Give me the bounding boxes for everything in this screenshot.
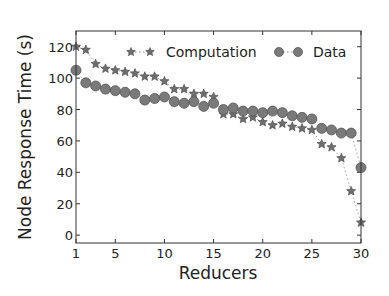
- circle-marker-icon: [179, 98, 189, 108]
- plot-frame: [76, 31, 361, 243]
- circle-marker-icon: [258, 108, 268, 118]
- legend: Computation Data: [127, 44, 347, 60]
- plot-series: [71, 42, 366, 227]
- star-marker-icon: [297, 124, 306, 133]
- x-tick-label: 25: [304, 246, 321, 261]
- circle-marker-icon: [159, 92, 169, 102]
- x-tick-label: 20: [254, 246, 271, 261]
- legend-label-computation: Computation: [166, 44, 257, 60]
- star-marker-icon: [140, 72, 149, 81]
- circle-marker-icon: [218, 105, 228, 115]
- legend-label-data: Data: [313, 44, 346, 60]
- circle-marker-icon: [209, 98, 219, 108]
- series-line-data: [76, 70, 361, 167]
- star-marker-icon: [317, 139, 326, 148]
- circle-marker-icon: [130, 89, 140, 99]
- x-tick-label: 1: [72, 246, 80, 261]
- star-marker-icon: [347, 186, 356, 195]
- star-marker-icon: [146, 48, 155, 56]
- circle-marker-icon: [317, 123, 327, 133]
- star-marker-icon: [81, 45, 90, 54]
- circle-marker-icon: [238, 106, 248, 116]
- circle-marker-icon: [228, 103, 238, 113]
- y-tick-label: 120: [48, 40, 73, 55]
- y-axis-label: Node Response Time (s): [15, 34, 35, 240]
- circle-marker-icon: [336, 128, 346, 138]
- x-tick-label: 15: [205, 246, 222, 261]
- circle-marker-icon: [91, 81, 101, 91]
- series-line-computation: [76, 47, 361, 223]
- circle-marker-icon: [287, 111, 297, 121]
- star-marker-icon: [121, 67, 130, 76]
- circle-marker-icon: [294, 48, 303, 57]
- star-marker-icon: [288, 122, 297, 131]
- star-marker-icon: [127, 48, 136, 56]
- star-marker-icon: [337, 153, 346, 162]
- chart: 020406080100120 151015202530 Computation…: [0, 0, 389, 296]
- x-tick-label: 10: [156, 246, 173, 261]
- circle-marker-icon: [268, 106, 278, 116]
- x-tick-label: 5: [111, 246, 119, 261]
- legend-item-computation: Computation: [127, 44, 257, 60]
- circle-marker-icon: [277, 108, 287, 118]
- circle-marker-icon: [248, 106, 258, 116]
- circle-marker-icon: [346, 128, 356, 138]
- star-marker-icon: [91, 59, 100, 68]
- star-marker-icon: [160, 76, 169, 85]
- star-marker-icon: [268, 120, 277, 129]
- star-marker-icon: [111, 65, 120, 74]
- circle-marker-icon: [150, 94, 160, 104]
- star-marker-icon: [199, 89, 208, 98]
- y-tick-label: 0: [65, 228, 73, 243]
- star-marker-icon: [278, 119, 287, 128]
- circle-marker-icon: [275, 48, 284, 57]
- circle-marker-icon: [199, 101, 209, 111]
- y-tick-label: 60: [56, 134, 73, 149]
- y-tick-label: 80: [56, 103, 73, 118]
- circle-marker-icon: [169, 97, 179, 107]
- circle-marker-icon: [307, 114, 317, 124]
- x-tick-label: 30: [353, 246, 370, 261]
- x-axis-label: Reducers: [179, 263, 258, 283]
- circle-marker-icon: [120, 87, 130, 97]
- circle-marker-icon: [297, 112, 307, 122]
- legend-item-data: Data: [275, 44, 347, 60]
- star-marker-icon: [101, 64, 110, 73]
- star-marker-icon: [180, 84, 189, 93]
- circle-marker-icon: [110, 86, 120, 96]
- y-tick-label: 100: [48, 71, 73, 86]
- circle-marker-icon: [140, 95, 150, 105]
- circle-marker-icon: [100, 84, 110, 94]
- y-tick-label: 20: [56, 197, 73, 212]
- star-marker-icon: [130, 69, 139, 78]
- y-axis: 020406080100120: [48, 40, 361, 243]
- star-marker-icon: [327, 142, 336, 151]
- star-marker-icon: [258, 117, 267, 126]
- y-tick-label: 40: [56, 165, 73, 180]
- circle-marker-icon: [189, 97, 199, 107]
- star-marker-icon: [170, 84, 179, 93]
- star-marker-icon: [150, 72, 159, 81]
- star-marker-icon: [307, 125, 316, 134]
- x-axis: 151015202530: [72, 31, 369, 261]
- circle-marker-icon: [327, 125, 337, 135]
- circle-marker-icon: [81, 78, 91, 88]
